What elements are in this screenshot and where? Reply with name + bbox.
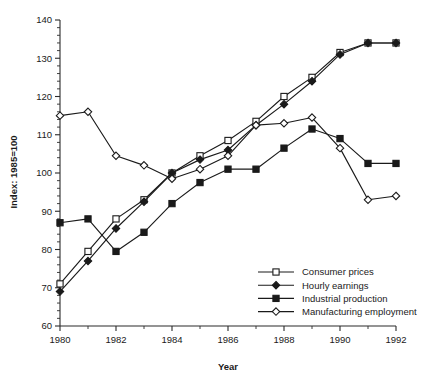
data-point-marker xyxy=(273,295,279,301)
data-point-marker xyxy=(113,248,119,254)
chart-figure: 60708090100110120130140 1980198219841986… xyxy=(0,0,422,386)
y-tick-label: 130 xyxy=(36,53,52,64)
plot-background xyxy=(0,0,422,386)
y-tick-label: 100 xyxy=(36,167,52,178)
y-axis-title: Index: 1985=100 xyxy=(8,135,19,208)
x-tick-label: 1980 xyxy=(49,334,70,345)
data-point-marker xyxy=(169,201,175,207)
data-point-marker xyxy=(197,179,203,185)
y-tick-label: 80 xyxy=(41,244,52,255)
legend-label: Manufacturing employment xyxy=(302,306,417,317)
data-point-marker xyxy=(225,137,231,143)
x-tick-label: 1986 xyxy=(217,334,238,345)
data-point-marker xyxy=(281,93,287,99)
x-tick-label: 1982 xyxy=(105,334,126,345)
data-point-marker xyxy=(309,126,315,132)
legend-label: Hourly earnings xyxy=(302,280,369,291)
data-point-marker xyxy=(253,166,259,172)
y-tick-label: 120 xyxy=(36,91,52,102)
data-point-marker xyxy=(337,135,343,141)
x-tick-label: 1984 xyxy=(161,334,182,345)
data-point-marker xyxy=(57,281,63,287)
data-point-marker xyxy=(225,166,231,172)
data-point-marker xyxy=(281,145,287,151)
data-point-marker xyxy=(141,229,147,235)
data-point-marker xyxy=(113,216,119,222)
legend-label: Consumer prices xyxy=(302,266,374,277)
data-point-marker xyxy=(85,216,91,222)
y-tick-label: 60 xyxy=(41,320,52,331)
line-chart-canvas: 60708090100110120130140 1980198219841986… xyxy=(0,0,422,386)
legend-label: Industrial production xyxy=(302,293,388,304)
data-point-marker xyxy=(57,220,63,226)
y-tick-label: 90 xyxy=(41,206,52,217)
data-point-marker xyxy=(393,160,399,166)
x-tick-label: 1990 xyxy=(329,334,350,345)
data-point-marker xyxy=(273,269,279,275)
x-axis-title: Year xyxy=(218,361,238,372)
data-point-marker xyxy=(85,248,91,254)
x-tick-label: 1992 xyxy=(385,334,406,345)
data-point-marker xyxy=(365,160,371,166)
y-tick-label: 140 xyxy=(36,14,52,25)
x-tick-label: 1988 xyxy=(273,334,294,345)
y-tick-label: 110 xyxy=(37,129,52,140)
y-tick-label: 70 xyxy=(41,282,52,293)
